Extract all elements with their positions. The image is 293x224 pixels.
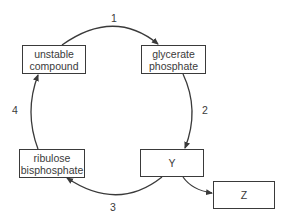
- arrow-1: [62, 26, 158, 45]
- arrow-4: [31, 75, 38, 149]
- node-label-line: Y: [168, 157, 175, 169]
- node-glycerate-phosphate: glycerate phosphate: [141, 45, 206, 74]
- arrow-y-to-z: [183, 177, 212, 193]
- arrow-3: [67, 177, 162, 195]
- node-y: Y: [140, 149, 204, 177]
- node-z: Z: [213, 181, 275, 209]
- step-label-2: 2: [202, 104, 208, 116]
- arrow-2: [183, 74, 192, 148]
- node-ribulose-bisphosphate: ribulose bisphosphate: [19, 149, 85, 178]
- node-label-line: Z: [241, 189, 247, 201]
- node-label-line: phosphate: [149, 60, 198, 72]
- node-label-line: unstable: [29, 48, 78, 60]
- step-label-1: 1: [111, 12, 117, 24]
- node-label-line: glycerate: [149, 48, 198, 60]
- node-label-line: compound: [29, 60, 78, 72]
- node-label-line: bisphosphate: [21, 164, 83, 176]
- step-label-3: 3: [110, 201, 116, 213]
- node-unstable-compound: unstable compound: [22, 45, 86, 74]
- node-label-line: ribulose: [21, 152, 83, 164]
- step-label-4: 4: [12, 104, 18, 116]
